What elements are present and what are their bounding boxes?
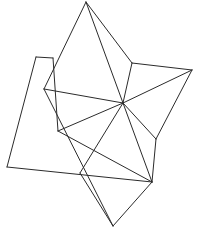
star-polygon-figure [0, 0, 198, 229]
